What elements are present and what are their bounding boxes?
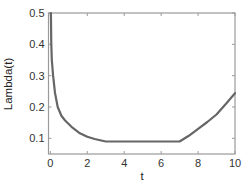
y-tick-label: 0.4 (29, 38, 44, 50)
y-tick-label: 0.5 (29, 7, 44, 19)
y-axis-label: Lambda(t) (2, 58, 14, 111)
x-axis-label: t (140, 170, 144, 182)
line-chart: 0.10.20.30.40.5 0246810 t Lambda(t) (0, 0, 249, 186)
x-tick-label: 8 (195, 157, 201, 169)
x-tick-label: 2 (84, 157, 90, 169)
plot-border (49, 13, 236, 154)
y-tick-label: 0.2 (29, 101, 44, 113)
x-axis-ticks: 0246810 (47, 13, 241, 169)
y-tick-label: 0.1 (29, 132, 44, 144)
lambda-curve (51, 13, 235, 142)
plot-frame (49, 13, 236, 154)
x-tick-label: 4 (121, 157, 127, 169)
y-tick-label: 0.3 (29, 70, 44, 82)
x-tick-label: 10 (229, 157, 241, 169)
x-tick-label: 6 (158, 157, 164, 169)
x-tick-label: 0 (47, 157, 53, 169)
